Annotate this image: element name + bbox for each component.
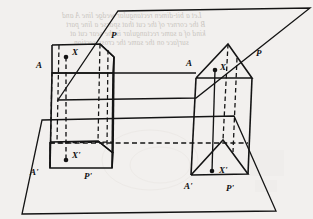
dot-X2-prime	[210, 169, 215, 174]
label-P: P	[111, 30, 117, 40]
label-P2-prime: P'	[226, 183, 234, 193]
label-A2: A	[186, 58, 192, 68]
label-X2-prime: X'	[219, 165, 228, 175]
label-P-prime: P'	[84, 171, 92, 181]
label-X2: X	[220, 62, 226, 72]
left-solid-hidden-edges	[50, 44, 113, 168]
left-solid-top-face	[52, 44, 114, 73]
label-A-prime: A'	[30, 167, 39, 177]
label-A: A	[36, 60, 42, 70]
geometry-figure: Let a bit-dimen rectangular wedge line A…	[0, 0, 313, 219]
lower-plane	[22, 116, 276, 214]
label-A2-prime: A'	[184, 181, 193, 191]
label-X: X	[72, 47, 78, 57]
upper-plane	[58, 8, 310, 100]
dot-X2	[213, 68, 218, 73]
left-solid-horizontal-connectors	[50, 73, 248, 143]
right-solid-hidden-edges	[223, 44, 237, 152]
dot-X-prime	[64, 158, 69, 163]
left-solid-bottom-face	[50, 141, 113, 168]
dot-X	[64, 55, 69, 60]
figure-canvas	[0, 0, 313, 219]
label-P2: P	[256, 48, 262, 58]
right-solid-vertical-edges	[191, 78, 252, 175]
label-X-prime: X'	[72, 150, 81, 160]
